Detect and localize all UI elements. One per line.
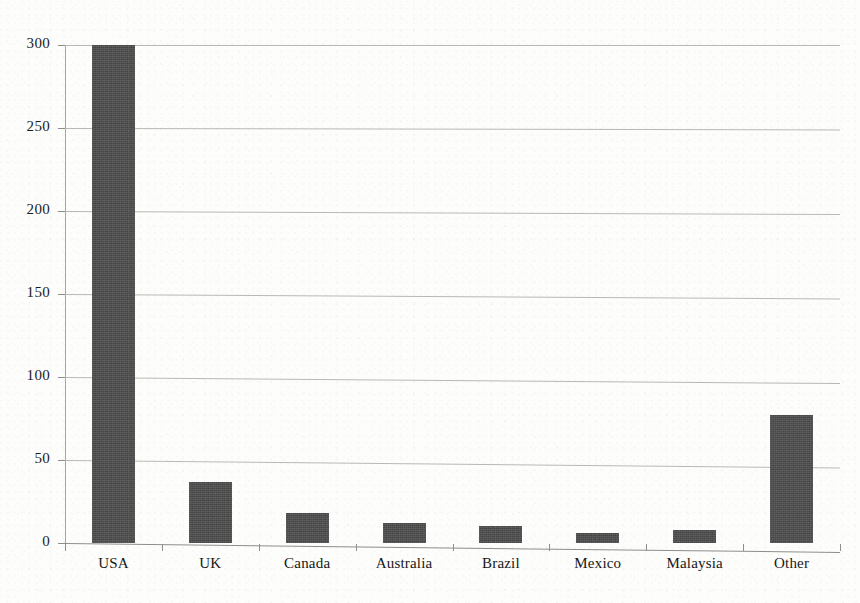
gridline-100	[65, 377, 840, 384]
x-tick-mark-2	[259, 544, 260, 551]
x-axis-label-brazil: Brazil	[453, 555, 550, 572]
x-tick-mark-6	[646, 544, 647, 551]
x-tick-mark-5	[549, 544, 550, 551]
plot-area	[65, 45, 840, 543]
x-tick-mark-1	[162, 544, 163, 551]
gridline-300	[65, 45, 840, 46]
y-tick-label-100: 100	[4, 367, 50, 384]
gridline-150	[65, 294, 840, 299]
bar-brazil	[479, 526, 522, 543]
x-tick-mark-3	[356, 544, 357, 551]
bar-mexico	[576, 533, 619, 543]
chart-page: 050100150200250300 USAUKCanadaAustraliaB…	[0, 0, 860, 603]
y-tick-label-150: 150	[4, 284, 50, 301]
bar-malaysia	[673, 530, 716, 543]
y-tick-label-200: 200	[4, 201, 50, 218]
x-axis-label-other: Other	[743, 555, 840, 572]
x-tick-mark-4	[453, 544, 454, 551]
bar-canada	[286, 513, 329, 543]
y-tick-label-250: 250	[4, 118, 50, 135]
gridline-50	[65, 460, 840, 468]
bar-other	[770, 415, 813, 543]
x-axis-label-mexico: Mexico	[549, 555, 646, 572]
bar-australia	[383, 523, 426, 543]
x-axis-label-canada: Canada	[259, 555, 356, 572]
y-tick-label-300: 300	[4, 35, 50, 52]
x-tick-mark-8	[840, 544, 841, 551]
x-axis-label-malaysia: Malaysia	[646, 555, 743, 572]
x-tick-mark-7	[743, 544, 744, 551]
bar-uk	[189, 482, 232, 543]
bar-usa	[92, 45, 135, 543]
y-tick-label-0: 0	[4, 533, 50, 550]
gridline-200	[65, 211, 840, 215]
y-tick-label-50: 50	[4, 450, 50, 467]
x-axis-label-australia: Australia	[356, 555, 453, 572]
x-axis-label-uk: UK	[162, 555, 259, 572]
x-axis-label-usa: USA	[65, 555, 162, 572]
x-tick-mark-0	[65, 544, 66, 551]
gridline-250	[65, 128, 840, 131]
